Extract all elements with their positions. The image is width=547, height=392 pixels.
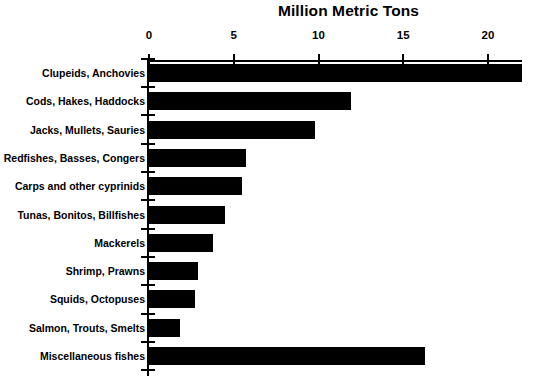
y-tick-mark <box>141 143 155 145</box>
bar <box>149 290 195 308</box>
x-tick-label: 5 <box>231 28 237 42</box>
y-tick-mark <box>141 171 155 173</box>
y-tick-mark <box>141 228 155 230</box>
bar <box>149 234 213 252</box>
bar-chart: Million Metric Tons 05101520 Clupeids, A… <box>0 0 547 392</box>
bar <box>149 177 242 195</box>
y-tick-mark <box>141 86 155 88</box>
x-tick-label: 0 <box>146 28 152 42</box>
category-label: Tunas, Bonitos, Billfishes <box>0 209 145 221</box>
category-label: Mackerels <box>0 237 145 249</box>
x-axis-line <box>148 60 522 62</box>
bar <box>149 206 225 224</box>
y-tick-mark <box>141 313 155 315</box>
x-tick-label: 10 <box>312 28 325 42</box>
category-label: Miscellaneous fishes <box>0 350 145 362</box>
chart-title: Million Metric Tons <box>0 2 547 20</box>
y-tick-mark <box>141 58 155 60</box>
y-tick-mark <box>141 341 155 343</box>
y-tick-mark <box>141 284 155 286</box>
category-label: Salmon, Trouts, Smelts <box>0 322 145 334</box>
category-label: Shrimp, Prawns <box>0 265 145 277</box>
category-label: Clupeids, Anchovies <box>0 67 145 79</box>
category-label: Squids, Octopuses <box>0 293 145 305</box>
bar <box>149 121 315 139</box>
y-tick-mark <box>141 199 155 201</box>
category-label: Carps and other cyprinids <box>0 180 145 192</box>
bar <box>149 262 198 280</box>
category-label: Redfishes, Basses, Congers <box>0 152 145 164</box>
bar <box>149 319 180 337</box>
bar <box>149 149 246 167</box>
x-tick-label: 15 <box>397 28 410 42</box>
bar <box>149 347 425 365</box>
x-tick-label: 20 <box>482 28 495 42</box>
bar <box>149 64 522 82</box>
y-tick-mark <box>141 369 155 371</box>
y-tick-mark <box>141 114 155 116</box>
bar <box>149 92 351 110</box>
y-tick-mark <box>141 256 155 258</box>
x-axis-tick-labels: 05101520 <box>0 28 547 44</box>
category-label: Cods, Hakes, Haddocks <box>0 95 145 107</box>
category-label: Jacks, Mullets, Sauries <box>0 124 145 136</box>
